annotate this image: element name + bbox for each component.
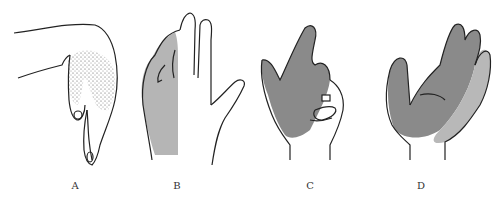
hand-nerve-figure: A B C D bbox=[0, 0, 500, 204]
panel-a-stipple bbox=[68, 50, 115, 110]
panel-b-hand bbox=[142, 13, 245, 165]
panel-label-b: B bbox=[167, 180, 187, 191]
panel-c-hand bbox=[261, 26, 343, 160]
hand-illustrations bbox=[0, 0, 500, 204]
panel-label-a: A bbox=[65, 180, 85, 191]
panel-label-d: D bbox=[411, 180, 431, 191]
panel-d-hand bbox=[386, 24, 490, 160]
panel-label-c: C bbox=[300, 180, 320, 191]
